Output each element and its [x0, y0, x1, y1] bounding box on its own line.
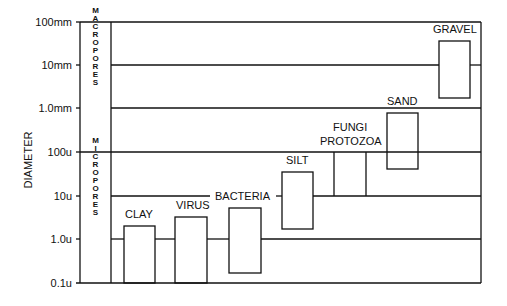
virus-box: [175, 217, 207, 283]
protozoa-label: PROTOZOA: [320, 135, 382, 147]
tick-label: 10mm: [41, 59, 72, 71]
tick-label: 1.0u: [51, 233, 72, 245]
virus-label: VIRUS: [176, 199, 210, 211]
clay-label: CLAY: [125, 208, 154, 220]
micropores-label: MICROPORES: [91, 136, 100, 216]
silt-box: [282, 172, 313, 229]
bacteria-label: BACTERIA: [215, 190, 271, 202]
pore-size-diagram: 100mm 10mm 1.0mm 100u 10u 1.0u 0.1u DIAM…: [0, 0, 507, 306]
tick-label: 1.0mm: [38, 102, 72, 114]
tick-label: 10u: [54, 190, 72, 202]
macropores-label: MACROPORES: [91, 6, 100, 86]
sand-label: SAND: [387, 95, 418, 107]
gravel-box: [439, 41, 470, 98]
fungi-label: FUNGI: [333, 121, 367, 133]
y-axis-label: DIAMETER: [22, 132, 34, 189]
tick-label: 100mm: [35, 16, 72, 28]
tick-label: 100u: [48, 146, 72, 158]
silt-label: SILT: [286, 154, 309, 166]
clay-box: [124, 226, 155, 283]
gravel-label: GRAVEL: [433, 23, 477, 35]
sand-box: [387, 113, 418, 169]
bacteria-box: [229, 208, 261, 273]
tick-label: 0.1u: [51, 277, 72, 289]
